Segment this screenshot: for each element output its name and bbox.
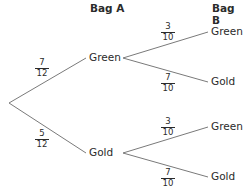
node-gold-then-green: Green xyxy=(211,120,243,132)
node-bag-a-green: Green xyxy=(89,51,121,63)
node-gold-then-gold: Gold xyxy=(211,170,235,182)
prob-green-gold: 7 10 xyxy=(161,73,175,93)
prob-gold-gold: 7 10 xyxy=(161,168,175,188)
header-bag-a: Bag A xyxy=(90,2,124,14)
prob-gold-green: 3 10 xyxy=(161,117,175,137)
node-green-then-gold: Gold xyxy=(211,75,235,87)
prob-a-gold: 5 12 xyxy=(35,129,49,149)
header-bag-b: Bag B xyxy=(212,2,243,26)
tree-diagram-lines xyxy=(0,0,243,192)
prob-green-green: 3 10 xyxy=(161,22,175,42)
prob-a-green: 7 12 xyxy=(35,58,49,78)
node-green-then-green: Green xyxy=(211,25,243,37)
node-bag-a-gold: Gold xyxy=(89,146,113,158)
